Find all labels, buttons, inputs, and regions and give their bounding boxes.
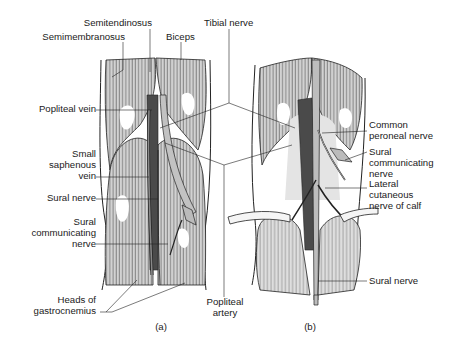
label-line: cutaneous <box>369 189 413 201</box>
label-line: Lateral <box>369 178 398 190</box>
label-line: Small <box>72 148 96 160</box>
label-sural-nerve-a: Sural nerve <box>47 192 96 204</box>
label-line: saphenous <box>49 159 96 171</box>
label-line: artery <box>200 307 250 319</box>
caption-b: (b) <box>299 321 321 333</box>
panel-a-drawing <box>100 58 211 290</box>
label-line: nerve of calf <box>369 200 421 212</box>
label-line: Sural <box>369 146 391 158</box>
label-semimembranosus: Semimembranosus <box>42 31 125 43</box>
label-tibial-nerve: Tibial nerve <box>204 17 253 29</box>
label-sural-nerve-b: Sural nerve <box>369 275 418 287</box>
label-line: Popliteal <box>200 296 250 308</box>
label-line: Sural <box>74 216 96 228</box>
label-line: peroneal nerve <box>369 130 433 142</box>
caption-a: (a) <box>150 321 172 333</box>
label-popliteal-vein: Popliteal vein <box>39 103 96 115</box>
label-line: communicating <box>369 157 434 169</box>
label-semitendinosus: Semitendinosus <box>84 17 152 29</box>
label-line: Common <box>369 119 408 131</box>
label-line: communicating <box>31 227 96 239</box>
label-line: nerve <box>72 238 96 250</box>
label-line: Heads of <box>58 294 96 306</box>
label-line: vein <box>78 170 96 182</box>
label-biceps: Biceps <box>166 31 195 43</box>
panel-b-drawing <box>228 58 378 305</box>
anatomy-figure: Semitendinosus Semimembranosus Biceps Ti… <box>0 0 462 354</box>
label-line: gastrocnemius <box>34 305 96 317</box>
